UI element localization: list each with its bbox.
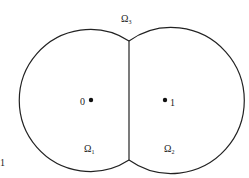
point-0-label: 0 <box>80 96 85 107</box>
region-omega1-label: Ω1 <box>84 143 94 155</box>
point-1-dot <box>163 98 167 102</box>
corner-label: 1 <box>0 157 5 168</box>
region-omega3-label: Ω3 <box>121 13 131 25</box>
left-circle-arc <box>19 29 129 171</box>
right-circle-arc <box>129 27 244 173</box>
region-omega2-label: Ω2 <box>164 143 174 155</box>
point-0-dot <box>89 98 93 102</box>
point-1-label: 1 <box>170 97 175 108</box>
two-disk-diagram: 0 1 Ω3 Ω1 Ω2 1 <box>0 0 249 178</box>
